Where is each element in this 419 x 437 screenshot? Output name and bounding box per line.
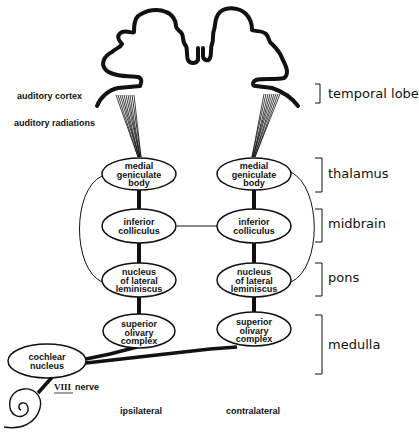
label-auditory-cortex: auditory cortex [17,91,82,101]
brain-right-hemisphere [203,8,298,106]
label-auditory-radiations: auditory radiations [14,118,95,128]
auditory-radiations-right [252,94,280,157]
node-left-superior-olivary-complex: superior olivary complex [104,320,174,346]
label-ipsilateral: ipsilateral [120,406,162,416]
region-medulla: medulla [328,337,380,352]
region-thalamus: thalamus [328,166,389,181]
node-left-medial-geniculate-body: medial geniculate body [104,162,174,188]
node-left-nucleus-lateral-lemniscus: nucleus of lateral leminiscus [104,268,174,294]
node-right-superior-olivary-complex: superior olivary complex [219,318,289,344]
node-left-inferior-colliculus: inferior colliculus [104,218,174,235]
node-line: colliculus [219,227,289,236]
region-midbrain: midbrain [328,216,386,231]
node-line: leminiscus [104,285,174,294]
label-viii-numeral: VIII [54,382,71,392]
region-brackets [315,84,322,374]
node-line: body [219,179,289,188]
node-line: nucleus [12,362,82,371]
node-line: complex [104,337,174,346]
region-pons: pons [328,270,359,285]
brain-left-hemisphere [97,10,198,106]
left-nll-to-mgb-arc [80,176,103,282]
auditory-radiations-left [116,95,141,157]
node-cochlear-nucleus: cochlear nucleus [12,353,82,370]
node-line: leminiscus [219,285,289,294]
node-right-medial-geniculate-body: medial geniculate body [219,162,289,188]
label-viii-nerve: nerve [75,382,99,392]
region-temporal-lobe: temporal lobe [328,86,419,101]
label-contralateral: contralateral [226,406,280,416]
node-line: body [104,179,174,188]
vertical-tracts [139,190,254,315]
right-nll-to-mgb-arc [291,172,314,282]
node-line: colliculus [104,227,174,236]
node-right-nucleus-lateral-lemniscus: nucleus of lateral leminiscus [219,268,289,294]
node-right-inferior-colliculus: inferior colliculus [219,218,289,235]
node-line: complex [219,335,289,344]
cochlea-spiral-icon [4,389,41,428]
